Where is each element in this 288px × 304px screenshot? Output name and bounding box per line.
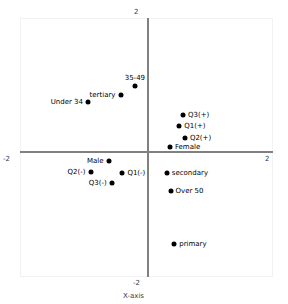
data-point [120,171,125,176]
data-point-label: Q2(+) [190,134,211,142]
data-point-label: Male [87,157,104,165]
data-point [86,100,91,105]
y-axis-line [147,18,149,277]
data-point-label: Q3(-) [89,179,107,187]
data-point [177,124,182,129]
x-axis-line [20,151,273,153]
data-point [181,113,186,118]
data-point [88,169,93,174]
data-point-label: Q3(+) [188,111,209,119]
data-point-label: 35-49 [125,74,145,82]
data-point-label: primary [179,240,206,248]
data-point [167,144,172,149]
data-point [164,171,169,176]
data-point-label: Q2(-) [68,168,86,176]
scatter-plot: 2 -2 -2 2 X-axis Y-axis 35-49tertiaryUnd… [0,0,288,304]
data-point [118,92,123,97]
data-point-label: Q1(-) [127,169,145,177]
data-point [168,188,173,193]
data-point [106,159,111,164]
x-axis-title: X-axis [123,292,144,300]
x-axis-tick-min: -2 [3,155,10,163]
data-point-label: Q1(+) [184,122,205,130]
data-point-label: secondary [172,169,208,177]
data-point-label: Over 50 [176,187,204,195]
y-axis-tick-min: -2 [133,279,140,287]
data-point [182,136,187,141]
data-point-label: Under 34 [51,98,83,106]
y-axis-tick-max: 2 [134,8,138,16]
data-point-label: Female [175,143,200,151]
data-point-label: tertiary [90,91,116,99]
data-point [132,83,137,88]
data-point [109,181,114,186]
x-axis-tick-max: 2 [265,155,269,163]
data-point [172,241,177,246]
